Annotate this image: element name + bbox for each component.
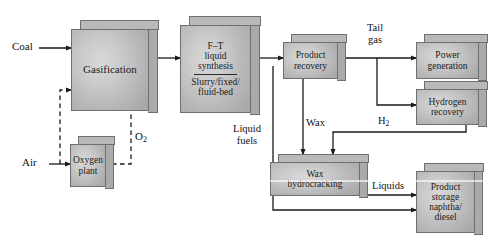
power-generation-line-2: generation — [427, 61, 467, 71]
label-coal: Coal — [12, 40, 33, 52]
hydrogen-recovery-line-2: recovery — [431, 107, 464, 117]
wax-hydrocracking-line-2: hydrocracking — [288, 179, 343, 189]
label-hydrogen-symbol: H — [378, 115, 386, 126]
block-gasification[interactable]: Gasification — [71, 20, 157, 111]
gasification-front-face: Gasification — [71, 29, 149, 111]
hydrogen-recovery-front-face: Hydrogen recovery — [416, 89, 479, 125]
ft-synthesis-line-3: synthesis — [198, 61, 233, 71]
ft-synthesis-side-plate — [250, 25, 260, 115]
ft-synthesis-sub-line-2: fluid-bed — [198, 87, 233, 97]
wax-hydrocracking-side-plate — [359, 162, 368, 198]
gasification-side-plate — [148, 29, 158, 113]
label-hydrogen: H2 — [378, 115, 389, 128]
product-storage-line-4: diesel — [434, 212, 456, 222]
arrow-tailgas-to-hydrogen-recovery — [377, 58, 417, 105]
oxygen-plant-line-1: Oxygen — [73, 155, 103, 165]
product-recovery-line-2: recovery — [294, 61, 327, 71]
label-oxygen: O2 — [135, 130, 147, 145]
block-power-generation[interactable]: Power generation — [416, 34, 486, 79]
block-hydrogen-recovery[interactable]: Hydrogen recovery — [416, 81, 486, 125]
label-tail-gas-line-2: gas — [355, 34, 395, 46]
label-oxygen-subscript: 2 — [143, 135, 147, 144]
ft-synthesis-divider — [194, 74, 237, 75]
power-generation-front-face: Power generation — [416, 42, 479, 79]
product-recovery-line-1: Product — [296, 50, 326, 60]
label-hydrogen-subscript: 2 — [386, 119, 390, 128]
ft-synthesis-sub-line-1: Slurry/fixed/ — [191, 77, 240, 87]
oxygen-plant-front-face: Oxygen plant — [70, 144, 106, 187]
ft-synthesis-front-face: F–T liquid synthesis Slurry/fixed/ fluid… — [180, 25, 251, 113]
label-tail-gas-line-1: Tail — [355, 22, 395, 34]
product-storage-line-1: Product — [431, 182, 461, 192]
product-storage-front-face: Product storage naphtha/ diesel — [416, 171, 475, 233]
arrow-hydrogen-recovery-to-wax — [333, 124, 466, 155]
label-liquids: Liquids — [372, 180, 404, 192]
label-air: Air — [22, 156, 37, 168]
ft-synthesis-line-1: F–T — [208, 41, 224, 51]
wax-hydrocracking-line-1: Wax — [306, 169, 323, 179]
label-tail-gas: Tail gas — [355, 22, 395, 45]
oxygen-plant-side-plate — [105, 144, 114, 189]
product-storage-line-3: naphtha/ — [429, 202, 462, 212]
power-generation-line-1: Power — [435, 50, 459, 60]
process-flow-diagram: Gasification F–T liquid synthesis Slurry… — [0, 0, 495, 241]
label-liquid-fuels-line-2: fuels — [224, 135, 270, 147]
ft-synthesis-line-2: liquid — [204, 51, 226, 61]
block-ft-synthesis[interactable]: F–T liquid synthesis Slurry/fixed/ fluid… — [180, 16, 268, 113]
block-oxygen-plant[interactable]: Oxygen plant — [70, 136, 120, 187]
block-product-storage[interactable]: Product storage naphtha/ diesel — [416, 163, 488, 233]
product-storage-line-2: storage — [432, 192, 459, 202]
hydrogen-recovery-line-1: Hydrogen — [429, 97, 467, 107]
product-storage-side-plate — [474, 171, 483, 235]
gasification-label: Gasification — [83, 64, 137, 76]
label-wax: Wax — [306, 117, 325, 129]
block-wax-hydrocracking[interactable]: Wax hydrocracking — [270, 154, 367, 196]
hydrogen-recovery-side-plate — [478, 89, 487, 127]
label-oxygen-symbol: O — [135, 130, 143, 142]
label-liquid-fuels-line-1: Liquid — [224, 123, 270, 135]
block-product-recovery[interactable]: Product recovery — [283, 34, 345, 79]
label-liquid-fuels: Liquid fuels — [224, 123, 270, 146]
oxygen-plant-line-2: plant — [79, 166, 98, 176]
product-recovery-front-face: Product recovery — [283, 42, 338, 79]
wax-hydrocracking-front-face: Wax hydrocracking — [270, 162, 360, 196]
power-generation-side-plate — [478, 42, 487, 81]
product-recovery-side-plate — [337, 42, 346, 81]
